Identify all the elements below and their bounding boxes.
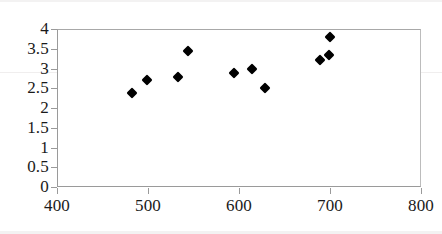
plot-area [57, 29, 421, 187]
y-axis-tick [51, 167, 57, 168]
page-edge-top [0, 0, 442, 2]
x-axis-tick [57, 188, 58, 194]
y-axis-tick [51, 69, 57, 70]
y-axis-tick-label: 2.5 [27, 79, 49, 96]
y-axis-tick-label: 1.5 [27, 119, 49, 136]
x-axis-tick-label: 700 [317, 197, 343, 215]
y-axis-tick-label: 3 [40, 60, 49, 77]
x-axis-tick [330, 188, 331, 194]
y-axis-tick [51, 49, 57, 50]
scatter-chart: 00.511.522.533.54 400500600700800 [0, 0, 442, 234]
y-axis-tick-label: 2 [40, 99, 49, 116]
y-axis-tick [51, 29, 57, 30]
y-axis-tick [51, 148, 57, 149]
x-axis-tick-label: 400 [44, 197, 70, 215]
y-axis-tick-label: 4 [40, 20, 49, 37]
x-axis-tick-label: 800 [408, 197, 434, 215]
y-axis-tick-label: 1 [40, 139, 49, 156]
y-axis-tick [51, 108, 57, 109]
x-axis-tick-label: 500 [135, 197, 161, 215]
x-axis-tick-label: 600 [226, 197, 252, 215]
x-axis-tick [239, 188, 240, 194]
y-axis-tick-label: 0 [40, 178, 49, 195]
x-axis-tick [421, 188, 422, 194]
y-axis-tick [51, 88, 57, 89]
page-edge-bottom [0, 231, 442, 234]
y-axis-tick [51, 128, 57, 129]
y-axis-tick-label: 3.5 [27, 40, 49, 57]
x-axis-tick [148, 188, 149, 194]
y-axis-tick-label: 0.5 [27, 158, 49, 175]
